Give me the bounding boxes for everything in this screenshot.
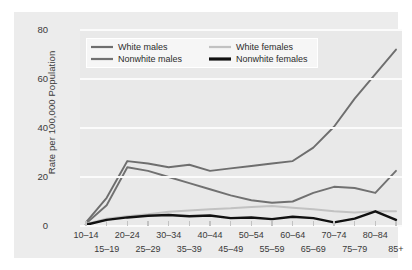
series-line: [86, 50, 396, 223]
legend-row-1: White males White females: [91, 41, 313, 53]
x-tick-label: 25–29: [135, 244, 160, 254]
chart-figure: Rate per 100,000 Population 020406080 10…: [0, 0, 412, 270]
x-tick-label: 60–64: [280, 230, 305, 240]
y-tick-label: 40: [14, 122, 48, 133]
y-tick-label: 60: [14, 73, 48, 84]
x-tick-label: 85+: [388, 244, 403, 254]
x-tick-label: 65–69: [301, 244, 326, 254]
gridline: [80, 78, 402, 80]
legend-item-white-females: White females: [209, 42, 293, 52]
x-tick-label: 55–59: [259, 244, 284, 254]
x-tick-label: 50–54: [239, 230, 264, 240]
gridline: [80, 127, 402, 129]
legend-label-nonwhite-females: Nonwhite females: [236, 54, 308, 64]
legend-label-nonwhite-males: Nonwhite males: [118, 54, 182, 64]
x-tick-label: 35–39: [177, 244, 202, 254]
series-line: [86, 206, 396, 224]
legend-row-2: Nonwhite males Nonwhite females: [91, 53, 313, 65]
legend-label-white-females: White females: [236, 42, 293, 52]
x-tick-label: 80–84: [363, 230, 388, 240]
x-tick-label: 30–34: [156, 230, 181, 240]
chart-canvas: Rate per 100,000 Population 020406080 10…: [14, 12, 398, 258]
legend-label-white-males: White males: [118, 42, 168, 52]
gridline: [80, 29, 402, 31]
series-line: [86, 211, 396, 224]
x-tick-label: 10–14: [73, 230, 98, 240]
x-tick-label: 40–44: [197, 230, 222, 240]
legend-item-nonwhite-males: Nonwhite males: [91, 54, 209, 64]
x-tick-label: 70–74: [321, 230, 346, 240]
legend-swatch-white-males: [91, 44, 113, 50]
y-tick-label: 20: [14, 171, 48, 182]
legend-item-white-males: White males: [91, 42, 209, 52]
gridline: [80, 176, 402, 178]
x-axis-labels: 10–1415–1920–2425–2930–3435–3940–4445–49…: [14, 226, 412, 270]
legend-swatch-nonwhite-females: [209, 56, 231, 62]
legend-item-nonwhite-females: Nonwhite females: [209, 54, 308, 64]
x-tick-label: 45–49: [218, 244, 243, 254]
chart-legend: White males White females Nonwhite males: [86, 38, 318, 68]
legend-swatch-white-females: [209, 44, 231, 50]
legend-swatch-nonwhite-males: [91, 56, 113, 62]
x-tick-label: 75–79: [342, 244, 367, 254]
x-tick-label: 15–19: [94, 244, 119, 254]
x-tick-label: 20–24: [115, 230, 140, 240]
y-tick-label: 80: [14, 24, 48, 35]
